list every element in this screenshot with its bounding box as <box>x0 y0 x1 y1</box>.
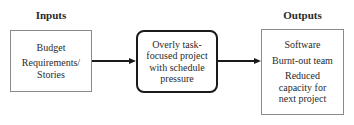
arrows-layer <box>0 0 354 125</box>
arrow-process-to-outputs <box>218 58 261 64</box>
arrow-inputs-to-process <box>92 58 136 64</box>
